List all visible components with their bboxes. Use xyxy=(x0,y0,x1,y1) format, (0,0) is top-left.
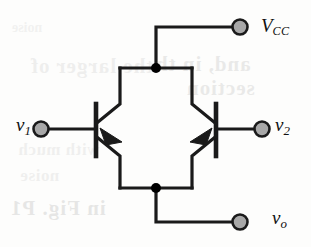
v2-terminal[interactable] xyxy=(255,122,270,137)
vcc-terminal[interactable] xyxy=(233,20,248,35)
vcc-label: VCC xyxy=(261,16,289,38)
wire-collector-right xyxy=(192,68,214,122)
wire-output-lead xyxy=(156,188,236,222)
vo-subscript: o xyxy=(280,216,287,231)
vcc-subscript: CC xyxy=(273,24,290,38)
v1-terminal[interactable] xyxy=(34,122,49,137)
vo-label: vo xyxy=(272,208,287,231)
wire-vcc-lead xyxy=(156,27,236,68)
collector-junction-dot xyxy=(151,63,161,73)
v2-subscript: 2 xyxy=(283,123,290,138)
figure-page: the larger of and, in th section with mu… xyxy=(0,0,311,247)
vcc-symbol: V xyxy=(261,15,273,36)
wire-emitter-right xyxy=(192,138,214,188)
wire-emitter-left xyxy=(98,138,120,188)
v1-label: v1 xyxy=(16,115,31,138)
v2-label: v2 xyxy=(275,115,290,138)
vo-terminal[interactable] xyxy=(233,215,248,230)
v1-subscript: 1 xyxy=(24,123,31,138)
wire-collector-left xyxy=(98,68,120,122)
emitter-junction-dot xyxy=(151,183,161,193)
